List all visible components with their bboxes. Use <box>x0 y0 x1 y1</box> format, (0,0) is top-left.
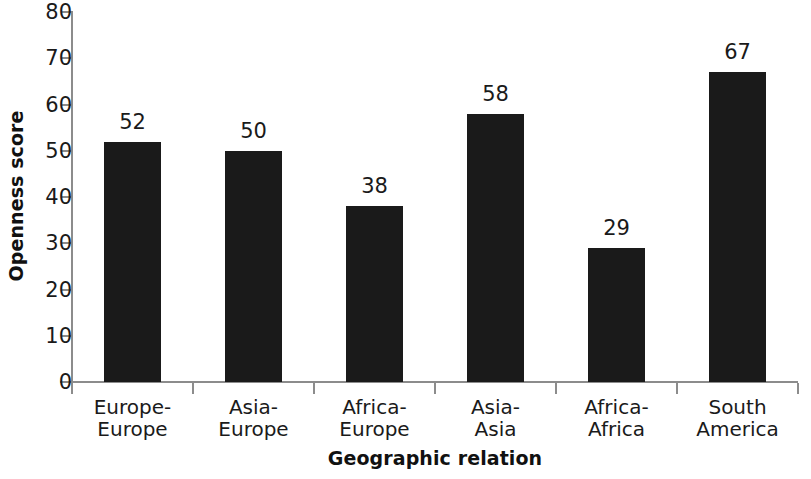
x-axis-category-label: Africa- Europe <box>314 396 435 441</box>
bar <box>225 151 282 382</box>
x-axis-category-label: Asia- Europe <box>193 396 314 441</box>
bar-value-label: 52 <box>93 112 173 133</box>
x-axis-tick <box>434 383 436 394</box>
bar-value-label: 67 <box>698 42 778 63</box>
x-axis-tick <box>71 383 73 394</box>
bar <box>709 72 766 382</box>
y-axis-tick-label: 0 <box>26 372 72 393</box>
y-axis-tick-label: 50 <box>26 140 72 161</box>
x-axis-category-label: Asia- Asia <box>435 396 556 441</box>
x-axis-category-label: Africa- Africa <box>556 396 677 441</box>
x-axis-line <box>60 381 798 383</box>
x-axis-tick <box>797 383 799 394</box>
bar <box>346 206 403 382</box>
y-axis-tick-label: 10 <box>26 325 72 346</box>
y-axis-tick-label: 80 <box>26 2 72 23</box>
y-axis-title-text: Openness score <box>5 110 27 281</box>
x-axis-title: Geographic relation <box>72 447 798 469</box>
x-axis-tick <box>676 383 678 394</box>
bar-value-label: 58 <box>456 84 536 105</box>
x-axis-category-label: South America <box>677 396 798 441</box>
y-axis-tick-label: 70 <box>26 48 72 69</box>
bar-value-label: 50 <box>214 121 294 142</box>
bar <box>104 142 161 383</box>
bar <box>588 248 645 382</box>
x-axis-tick <box>192 383 194 394</box>
x-axis-tick <box>555 383 557 394</box>
y-axis-tick-label: 30 <box>26 233 72 254</box>
y-axis-tick-label: 60 <box>26 94 72 115</box>
x-axis-tick <box>313 383 315 394</box>
bar-value-label: 29 <box>577 218 657 239</box>
bar <box>467 114 524 382</box>
bar-value-label: 38 <box>335 176 415 197</box>
bar-chart: Openness score 0102030405060708052Europe… <box>0 0 811 479</box>
y-axis-tick-label: 20 <box>26 279 72 300</box>
y-axis-tick-label: 40 <box>26 187 72 208</box>
x-axis-category-label: Europe- Europe <box>72 396 193 441</box>
